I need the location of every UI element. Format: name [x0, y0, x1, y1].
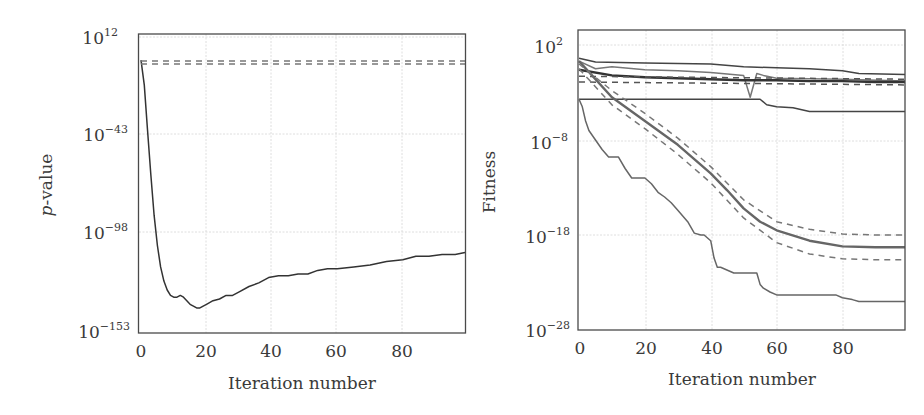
svg-text:0: 0 — [575, 338, 586, 358]
x-axis-label: Iteration number — [668, 369, 817, 389]
svg-text:10−98: 10−98 — [83, 221, 128, 243]
y-axis-label: p-value — [36, 154, 56, 217]
plot-frame — [139, 34, 466, 333]
svg-text:1012: 1012 — [82, 26, 118, 48]
grid — [139, 34, 465, 333]
series-line — [579, 76, 905, 79]
svg-text:10−153: 10−153 — [78, 320, 130, 342]
svg-text:0: 0 — [136, 341, 147, 361]
pvalue-series — [141, 60, 465, 308]
x-tick-labels: 0 20 40 60 80 — [136, 341, 413, 361]
svg-text:80: 80 — [391, 341, 413, 361]
svg-text:20: 20 — [635, 338, 657, 358]
svg-text:10−8: 10−8 — [530, 131, 568, 153]
svg-text:60: 60 — [766, 338, 788, 358]
svg-text:40: 40 — [701, 338, 723, 358]
svg-text:40: 40 — [260, 341, 282, 361]
series-line — [579, 58, 905, 74]
series-line — [579, 99, 905, 301]
svg-text:20: 20 — [195, 341, 217, 361]
series-line — [579, 61, 905, 247]
series-line — [141, 60, 465, 308]
pvalue-chart: 1012 10−43 10−98 10−153 0 20 40 60 80 It… — [36, 26, 466, 393]
fitness-chart: 102 10−8 10−18 10−28 0 20 40 60 80 Itera… — [479, 30, 905, 389]
figure: 1012 10−43 10−98 10−153 0 20 40 60 80 It… — [0, 0, 924, 415]
svg-text:102: 102 — [534, 35, 563, 57]
y-axis-label: Fitness — [479, 151, 499, 214]
svg-text:60: 60 — [325, 341, 347, 361]
svg-text:10−28: 10−28 — [525, 319, 570, 341]
x-tick-labels: 0 20 40 60 80 — [575, 338, 854, 358]
y-tick-labels: 1012 10−43 10−98 10−153 — [78, 26, 130, 342]
svg-text:10−43: 10−43 — [83, 123, 128, 145]
y-tick-labels: 102 10−8 10−18 10−28 — [525, 35, 570, 341]
series-line — [579, 64, 905, 235]
svg-text:10−18: 10−18 — [525, 225, 570, 247]
svg-text:80: 80 — [832, 338, 854, 358]
x-axis-label: Iteration number — [228, 373, 377, 393]
fitness-series — [579, 58, 905, 301]
series-line — [579, 69, 905, 260]
